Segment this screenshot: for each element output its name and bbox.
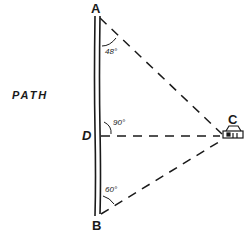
house-icon	[223, 126, 243, 138]
angle-arc-A	[102, 38, 116, 46]
angle-arc-B	[103, 196, 114, 204]
point-label-B: B	[92, 219, 101, 232]
sight-lines	[100, 18, 222, 214]
angle-label-D: 90°	[113, 119, 125, 127]
point-label-D: D	[82, 129, 91, 142]
path-label: PATH	[12, 90, 48, 101]
angle-label-A: 48°	[105, 48, 117, 56]
line-B-C	[101, 140, 222, 214]
path-line	[95, 16, 101, 216]
angle-label-B: 60°	[105, 186, 117, 194]
diagram-canvas	[0, 0, 251, 241]
angle-arc-D	[104, 122, 111, 134]
line-A-C	[100, 18, 222, 134]
point-label-A: A	[91, 2, 100, 15]
point-label-C: C	[228, 113, 237, 126]
